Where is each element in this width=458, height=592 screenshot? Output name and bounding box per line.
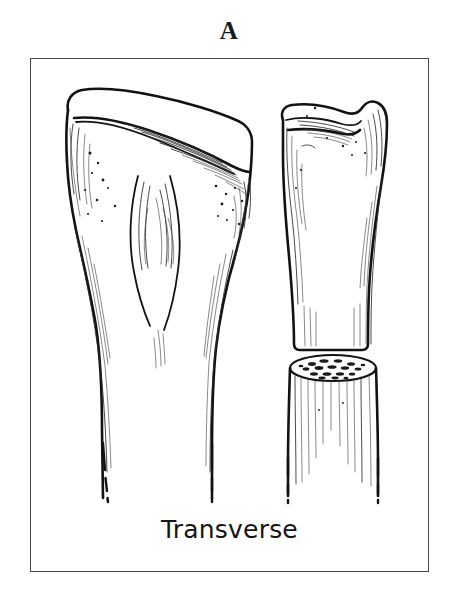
fragment-lower-striations [304, 304, 360, 346]
lateral-tubercle-shading [364, 110, 382, 176]
lateral-view-tibia-proximal-fragment [282, 102, 387, 350]
bone-illustration [30, 58, 429, 572]
figure-root: A [0, 0, 458, 592]
medial-condyle-shading [71, 124, 92, 208]
shaft-shading-medial [75, 228, 111, 472]
distal-shaft-striations [295, 375, 371, 486]
lateral-cancellous-speckles [295, 107, 366, 189]
tibial-tuberosity [131, 176, 180, 368]
figure-caption: Transverse [30, 516, 429, 544]
panel-letter: A [0, 18, 458, 43]
lateral-view-tibia-distal-fragment [288, 355, 378, 503]
anterior-view-tibia [66, 89, 252, 502]
